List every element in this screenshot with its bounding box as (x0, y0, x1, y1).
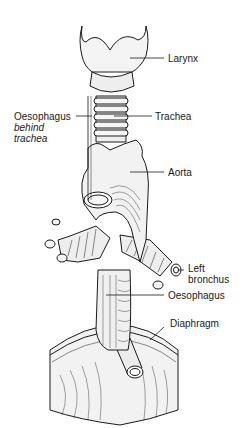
label-oesophagus-behind-line3: trachea (14, 133, 47, 144)
label-oesophagus-behind: Oesophagus (14, 111, 71, 122)
label-trachea: Trachea (155, 111, 191, 122)
label-aorta: Aorta (168, 167, 192, 178)
label-diaphragm: Diaphragm (170, 318, 219, 329)
anatomy-illustration (0, 0, 247, 428)
label-larynx: Larynx (168, 53, 198, 64)
larynx-shape (80, 26, 148, 92)
label-oesophagus-behind-line2: behind (14, 122, 44, 133)
oesophagus-shape (96, 270, 131, 350)
label-oesophagus: Oesophagus (168, 290, 225, 301)
label-left-bronchus-line2: bronchus (188, 274, 229, 285)
label-left-bronchus: Left (188, 263, 205, 274)
